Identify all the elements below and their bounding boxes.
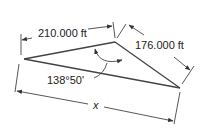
- side-label-176: 176.000 ft: [135, 40, 184, 51]
- triangle-diagram: [0, 0, 207, 134]
- side-label-210: 210.000 ft: [38, 28, 87, 39]
- unknown-length-label: x: [93, 100, 99, 111]
- angle-label: 138°50': [47, 75, 84, 86]
- angle-arc: [94, 49, 122, 78]
